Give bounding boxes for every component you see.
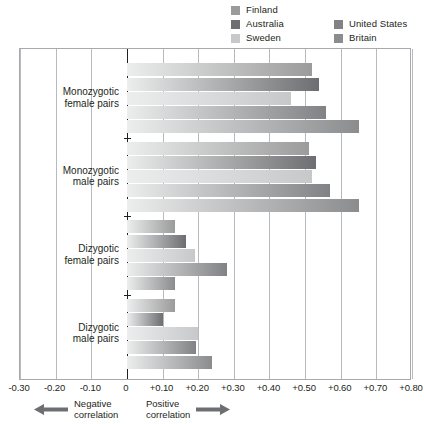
legend-column-right: United States Britain xyxy=(334,17,407,45)
bar xyxy=(127,156,316,169)
gridline xyxy=(376,49,377,379)
bar xyxy=(127,263,227,276)
x-axis-tick-label: 0 xyxy=(106,382,146,394)
x-axis-tick-label: +0.70 xyxy=(355,382,395,394)
legend-label: Britain xyxy=(349,33,377,43)
bar xyxy=(127,142,309,155)
bar xyxy=(127,120,359,133)
legend-swatch-icon xyxy=(231,34,240,43)
x-axis-tick-label: +0.20 xyxy=(177,382,217,394)
bar xyxy=(127,220,175,233)
legend-label: Finland xyxy=(246,5,278,15)
legend-label: Australia xyxy=(246,19,284,29)
legend-swatch-icon xyxy=(231,6,240,15)
positive-correlation-annotation: Positive correlation xyxy=(146,398,230,420)
group-separator-tick xyxy=(124,216,131,217)
legend-item-sweden: Sweden xyxy=(231,31,284,45)
legend-item-united-states: United States xyxy=(334,17,407,31)
x-axis-tick-label: -0.10 xyxy=(70,382,110,394)
negative-correlation-label: Negative correlation xyxy=(74,398,118,420)
legend-swatch-icon xyxy=(231,20,240,29)
chart-plot-area: Monozygoticfemale pairsMonozygoticmale p… xyxy=(19,48,411,380)
bar xyxy=(127,106,327,119)
x-axis-tick-label: +0.50 xyxy=(284,382,324,394)
positive-correlation-label: Positive correlation xyxy=(146,398,190,420)
legend-label: Sweden xyxy=(246,33,281,43)
category-label: Dizygoticfemale pairs xyxy=(23,243,119,266)
bar xyxy=(127,327,198,340)
bar xyxy=(127,249,195,262)
legend-item-finland: Finland xyxy=(231,3,284,17)
x-axis-tick-label: +0.60 xyxy=(320,382,360,394)
gridline xyxy=(305,49,306,379)
x-axis-tick-label: +0.40 xyxy=(248,382,288,394)
arrow-right-icon xyxy=(196,403,230,416)
legend-column-left: Finland Australia Sweden xyxy=(231,3,284,45)
bar xyxy=(127,313,163,326)
x-axis-tick-label: +0.10 xyxy=(142,382,182,394)
bar xyxy=(127,356,213,369)
negative-correlation-annotation: Negative correlation xyxy=(34,398,118,420)
bar xyxy=(127,170,312,183)
category-label: Dizygoticmale pairs xyxy=(23,322,119,345)
legend-item-britain: Britain xyxy=(334,31,407,45)
bar xyxy=(127,199,359,212)
legend-label: United States xyxy=(349,19,407,29)
x-axis-tick-label: +0.30 xyxy=(213,382,253,394)
chart-x-axis: -0.30-0.20-0.100+0.10+0.20+0.30+0.40+0.5… xyxy=(0,382,425,396)
arrow-left-icon xyxy=(34,403,68,416)
bar xyxy=(127,63,312,76)
gridline xyxy=(20,49,21,379)
legend-item-australia: Australia xyxy=(231,17,284,31)
x-axis-tick-label: -0.30 xyxy=(0,382,39,394)
bar xyxy=(127,184,330,197)
bar xyxy=(127,341,196,354)
group-separator-tick xyxy=(124,138,131,139)
category-label: Monozygoticmale pairs xyxy=(23,165,119,188)
group-separator-tick xyxy=(124,295,131,296)
gridline xyxy=(341,49,342,379)
gridline xyxy=(412,49,413,379)
bar xyxy=(127,92,291,105)
x-axis-tick-label: +0.80 xyxy=(391,382,425,394)
bar xyxy=(127,277,175,290)
category-label: Monozygoticfemale pairs xyxy=(23,86,119,109)
legend-swatch-icon xyxy=(334,20,343,29)
bar xyxy=(127,78,319,91)
x-axis-tick-label: -0.20 xyxy=(35,382,75,394)
bar xyxy=(127,299,175,312)
bar xyxy=(127,235,186,248)
chart-footer-annotations: Negative correlation Positive correlatio… xyxy=(0,396,425,424)
chart-legend: Finland Australia Sweden United States B… xyxy=(231,3,425,45)
legend-swatch-icon xyxy=(334,34,343,43)
